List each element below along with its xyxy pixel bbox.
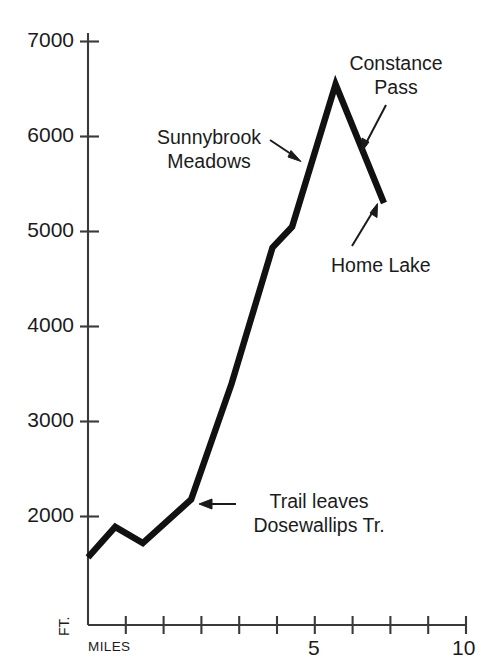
home-lake-arrow xyxy=(352,204,378,247)
annotation-sunnybrook-meadows: Sunnybrook Meadows xyxy=(144,126,274,174)
sunnybrook-arrow xyxy=(270,140,301,162)
annotation-constance-line2: Pass xyxy=(336,76,456,100)
y-tick-label-5000: 5000 xyxy=(14,218,74,242)
annotation-trail-leaves-line1: Trail leaves xyxy=(224,490,414,514)
annotation-sunnybrook-line2: Meadows xyxy=(144,150,274,174)
x-axis-unit-label: MILES xyxy=(88,639,131,654)
y-tick-label-3000: 3000 xyxy=(14,408,74,432)
constance-pass-arrow xyxy=(362,105,387,152)
y-tick-label-4000: 4000 xyxy=(14,313,74,337)
annotation-sunnybrook-line1: Sunnybrook xyxy=(144,126,274,150)
x-tick-label-10: 10 xyxy=(452,636,475,660)
y-axis-unit-label: FT. xyxy=(56,617,72,636)
x-tick-label-5: 5 xyxy=(308,636,320,660)
y-tick-label-6000: 6000 xyxy=(14,123,74,147)
annotation-trail-leaves: Trail leaves Dosewallips Tr. xyxy=(224,490,414,538)
annotation-constance-line1: Constance xyxy=(336,52,456,76)
y-tick-label-2000: 2000 xyxy=(14,503,74,527)
annotation-home-lake-line1: Home Lake xyxy=(331,254,481,278)
annotation-home-lake: Home Lake xyxy=(331,254,481,278)
y-axis-ticks xyxy=(80,42,99,517)
annotation-constance-pass: Constance Pass xyxy=(336,52,456,100)
annotation-trail-leaves-line2: Dosewallips Tr. xyxy=(224,514,414,538)
y-tick-label-7000: 7000 xyxy=(14,28,74,52)
elevation-profile-chart: 7000 6000 5000 4000 3000 2000 FT. MILES … xyxy=(0,0,489,670)
